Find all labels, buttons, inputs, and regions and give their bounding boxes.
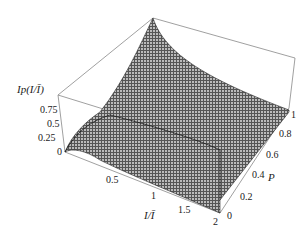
- x-tick: 1.5: [178, 205, 191, 215]
- z-axis-label: Ip(I/Ī): [17, 84, 44, 95]
- y-tick: 0.4: [252, 170, 265, 180]
- y-axis-label: P: [268, 172, 275, 183]
- x-tick: 1: [151, 191, 156, 201]
- x-tick: 2: [213, 217, 218, 227]
- z-tick: 0.5: [47, 119, 60, 129]
- z-tick: 0.75: [40, 105, 58, 115]
- z-tick: 0.25: [38, 133, 56, 143]
- x-axis-label: I/Ī: [144, 210, 154, 221]
- z-tick: 0: [57, 147, 62, 157]
- y-tick: 0.2: [240, 192, 253, 202]
- x-tick: 0.5: [106, 175, 119, 185]
- y-tick: 0: [227, 211, 232, 221]
- y-tick: 0.8: [279, 129, 292, 139]
- y-tick: 1: [291, 110, 296, 120]
- y-tick: 0.6: [266, 150, 279, 160]
